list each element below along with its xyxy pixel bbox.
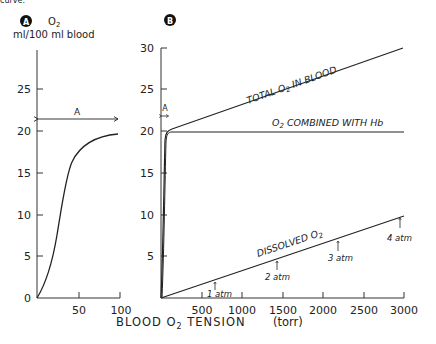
svg-text:20: 20 xyxy=(140,125,154,138)
svg-text:10: 10 xyxy=(140,209,154,222)
panel-a-ylabel-2: ml/100 ml blood xyxy=(13,29,95,40)
panel-a-ylabel-1: O2 xyxy=(48,16,60,29)
svg-text:25: 25 xyxy=(140,83,154,96)
panel-b: B 30 25 20 15 10 5 500 100 xyxy=(140,14,418,317)
panel-a-range-label: A xyxy=(74,107,81,117)
svg-text:2500: 2500 xyxy=(350,304,378,317)
dissolved-o2-label: DISSOLVED O2 xyxy=(255,226,325,260)
svg-text:30: 30 xyxy=(140,42,154,55)
panel-b-y-tick-labels: 30 25 20 15 10 5 xyxy=(140,42,154,263)
svg-text:5: 5 xyxy=(147,250,154,263)
x-axis-unit: (torr) xyxy=(273,315,303,329)
svg-text:3000: 3000 xyxy=(390,304,418,317)
figure: curve. A O2 ml/100 ml blood 25 20 15 10 … xyxy=(0,0,436,344)
panel-b-range-label: A xyxy=(162,104,168,113)
svg-text:25: 25 xyxy=(17,83,31,96)
svg-text:15: 15 xyxy=(17,167,31,180)
x-axis-label: BLOOD O2 TENSION xyxy=(116,315,246,331)
svg-text:2000: 2000 xyxy=(309,304,337,317)
panel-a-y-tick-labels: 25 20 15 10 5 0 xyxy=(17,83,31,305)
svg-text:15: 15 xyxy=(140,167,154,180)
hb-o2-label: O2 COMBINED WITH Hb xyxy=(272,117,383,130)
svg-text:10: 10 xyxy=(17,209,31,222)
svg-text:5: 5 xyxy=(24,250,31,263)
svg-text:50: 50 xyxy=(72,304,86,317)
header-fragment: curve. xyxy=(0,0,25,5)
svg-text:0: 0 xyxy=(24,292,31,305)
total-o2-label: TOTAL O2 IN BLOOD xyxy=(245,64,339,108)
dissolved-o2-line xyxy=(161,216,404,298)
marker-4-atm: 4 atm xyxy=(387,233,412,243)
svg-text:20: 20 xyxy=(17,125,31,138)
marker-2-atm: 2 atm xyxy=(265,272,290,282)
svg-text:A: A xyxy=(23,18,30,27)
panel-a-dissociation-curve xyxy=(37,134,118,298)
marker-1-atm: 1 atm xyxy=(207,289,232,299)
panel-a: A O2 ml/100 ml blood 25 20 15 10 5 0 50 … xyxy=(13,15,132,317)
svg-text:B: B xyxy=(167,17,173,26)
marker-3-atm: 3 atm xyxy=(328,253,353,263)
